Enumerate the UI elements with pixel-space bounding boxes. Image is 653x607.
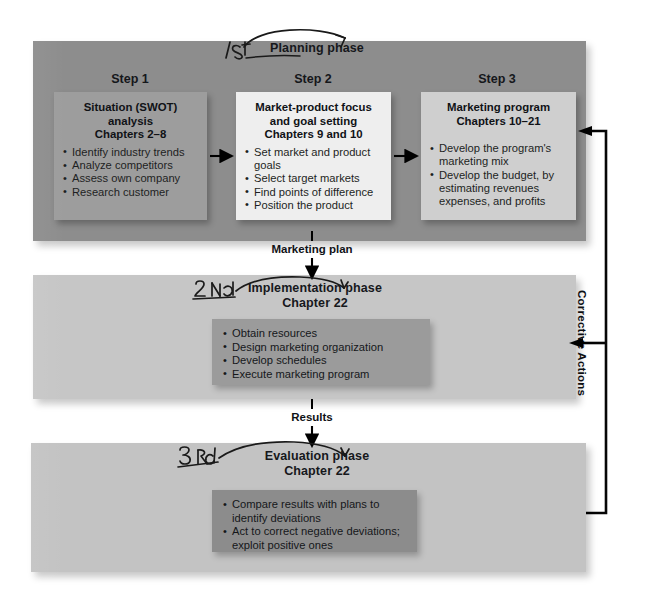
step-1-label-text: Step 1 xyxy=(111,72,149,86)
step-2-label: Step 2 xyxy=(253,72,373,86)
evaluation-phase-caption-text: Evaluation phase xyxy=(222,449,412,464)
implementation-phase-caption-text: Implementation phase xyxy=(220,281,410,296)
corrective-actions-label: Corrective Actions xyxy=(576,290,589,440)
list-item: Find points of difference xyxy=(245,186,382,199)
implementation-phase-caption: Implementation phase Chapter 22 xyxy=(220,281,410,311)
corrective-actions-label-text: Corrective Actions xyxy=(576,290,589,396)
step-1-title: Situation (SWOT) analysis Chapters 2–8 xyxy=(63,101,198,142)
step-3-box: Marketing program Chapters 10–21 Develop… xyxy=(421,92,576,220)
list-item: Design marketing organization xyxy=(223,341,419,355)
evaluation-bullet-list: Compare results with plans to identify d… xyxy=(223,498,406,552)
marketing-plan-label-text: Marketing plan xyxy=(271,243,352,255)
step-2-title-line-2: and goal setting xyxy=(245,115,382,129)
list-item: Research customer xyxy=(63,186,198,199)
step-3-title: Marketing program Chapters 10–21 xyxy=(430,101,567,128)
planning-phase-caption-text: Planning phase xyxy=(270,41,364,55)
step-3-title-line-2: Chapters 10–21 xyxy=(430,115,567,129)
list-item: Position the product xyxy=(245,199,382,212)
step-1-title-line-3: Chapters 2–8 xyxy=(63,128,198,142)
evaluation-phase-caption: Evaluation phase Chapter 22 xyxy=(222,449,412,479)
step-1-bullet-list: Identify industry trends Analyze competi… xyxy=(63,146,198,199)
step-2-box: Market-product focus and goal setting Ch… xyxy=(236,92,391,220)
step-3-label-text: Step 3 xyxy=(478,72,516,86)
list-item: Develop schedules xyxy=(223,354,419,368)
marketing-plan-connector-label: Marketing plan xyxy=(232,243,392,255)
results-label-text: Results xyxy=(291,411,333,423)
list-item: Set market and product goals xyxy=(245,146,382,173)
list-item: Compare results with plans to identify d… xyxy=(223,498,406,525)
step-2-title-line-1: Market-product focus xyxy=(245,101,382,115)
list-item: Assess own company xyxy=(63,172,198,185)
list-item: Act to correct negative deviations; expl… xyxy=(223,525,406,552)
step-3-bullet-list: Develop the program's marketing mix Deve… xyxy=(430,142,567,208)
step-1-label: Step 1 xyxy=(70,72,190,86)
step-2-bullet-list: Set market and product goals Select targ… xyxy=(245,146,382,212)
step-2-label-text: Step 2 xyxy=(294,72,332,86)
evaluation-task-panel: Compare results with plans to identify d… xyxy=(212,490,417,552)
step-3-label: Step 3 xyxy=(437,72,557,86)
list-item: Obtain resources xyxy=(223,327,419,341)
implementation-bullet-list: Obtain resources Design marketing organi… xyxy=(223,327,419,381)
evaluation-phase-chapter: Chapter 22 xyxy=(222,464,412,479)
list-item: Develop the budget, by estimating revenu… xyxy=(430,169,567,209)
list-item: Execute marketing program xyxy=(223,368,419,382)
list-item: Identify industry trends xyxy=(63,146,198,159)
step-1-box: Situation (SWOT) analysis Chapters 2–8 I… xyxy=(54,92,207,220)
diagram-canvas: Planning phase Step 1 Step 2 Step 3 Situ… xyxy=(0,0,653,607)
corrective-actions-feedback-path xyxy=(586,131,606,513)
step-3-title-line-1: Marketing program xyxy=(430,101,567,115)
list-item: Develop the program's marketing mix xyxy=(430,142,567,169)
step-1-title-line-2: analysis xyxy=(63,115,198,129)
step-2-title: Market-product focus and goal setting Ch… xyxy=(245,101,382,142)
implementation-task-panel: Obtain resources Design marketing organi… xyxy=(212,319,430,385)
step-1-title-line-1: Situation (SWOT) xyxy=(63,101,198,115)
implementation-phase-chapter: Chapter 22 xyxy=(220,296,410,311)
results-connector-label: Results xyxy=(232,411,392,423)
step-2-title-line-3: Chapters 9 and 10 xyxy=(245,128,382,142)
list-item: Select target markets xyxy=(245,172,382,185)
list-item: Analyze competitors xyxy=(63,159,198,172)
planning-phase-caption: Planning phase xyxy=(227,41,407,56)
